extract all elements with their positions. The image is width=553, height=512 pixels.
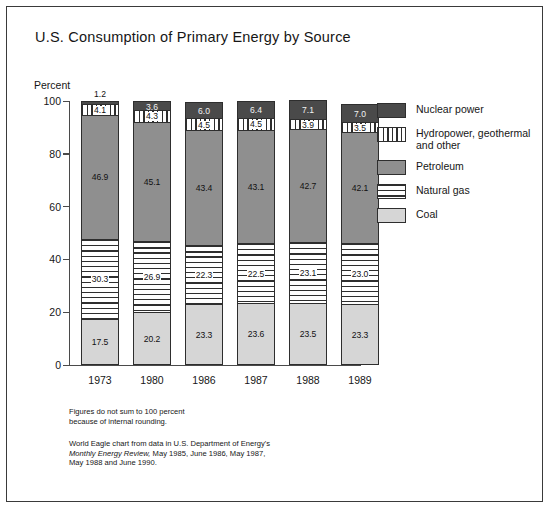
segment-gas-1973: 30.3 [81,239,119,319]
segment-hydro-1988: 3.9 [289,119,327,129]
legend-label-coal: Coal [416,208,438,221]
value-label-hydro-1973: 4.1 [82,106,118,115]
value-label-nuclear-1988: 7.1 [290,106,326,115]
rounding-note-line2: because of internal rounding. [69,417,185,427]
x-tick-label-1980: 1980 [122,374,182,386]
value-label-gas-1986: 22.3 [186,271,222,280]
segment-coal-1980: 20.2 [133,312,171,365]
x-tick-label-1989: 1989 [330,374,390,386]
segment-gas-1986: 22.3 [185,245,223,304]
x-tick-label-1987: 1987 [226,374,286,386]
legend-item-nuclear[interactable]: Nuclear power [377,103,542,118]
source-publication: Monthly Energy Review, [69,449,150,458]
y-tick-label: 0 [27,359,61,371]
legend-swatch-gas-icon [377,184,406,199]
legend: Nuclear powerHydropower, geothermal and … [377,103,542,232]
bar-1989[interactable]: 23.323.042.13.57.0 [341,101,379,365]
legend-label-nuclear: Nuclear power [416,103,484,116]
value-label-nuclear-1989: 7.0 [342,110,378,119]
y-tick-mark [63,365,70,366]
value-label-hydro-1988: 3.9 [290,121,326,129]
chart-frame: U.S. Consumption of Primary Energy by So… [6,6,543,502]
bar-1986[interactable]: 23.322.343.44.56.0 [185,101,223,365]
segment-petroleum-1986: 43.4 [185,130,223,245]
segment-gas-1987: 22.5 [237,243,275,302]
x-tick-label-1986: 1986 [174,374,234,386]
legend-item-hydro[interactable]: Hydropower, geothermal and other [377,127,542,151]
value-label-gas-1988: 23.1 [290,269,326,278]
legend-swatch-coal-icon [377,208,406,223]
segment-petroleum-1989: 42.1 [341,132,379,243]
value-label-petroleum-1988: 42.7 [290,182,326,191]
y-tick-mark [63,312,70,313]
segment-petroleum-1980: 45.1 [133,122,171,241]
segment-hydro-1987: 4.5 [237,118,275,130]
legend-label-gas: Natural gas [416,184,470,197]
value-label-coal-1986: 23.3 [186,331,222,340]
y-axis-line [69,101,70,365]
value-label-gas-1980: 26.9 [134,273,170,282]
legend-swatch-hydro-icon [377,127,406,142]
segment-hydro-1989: 3.5 [341,122,379,131]
segment-petroleum-1973: 46.9 [81,115,119,239]
segment-coal-1988: 23.5 [289,303,327,365]
value-label-nuclear-1987: 6.4 [238,106,274,115]
y-tick-label: 80 [27,148,61,160]
bar-1980[interactable]: 20.226.945.14.33.6 [133,101,171,365]
value-label-hydro-1989: 3.5 [342,124,378,131]
y-tick-label: 60 [27,201,61,213]
segment-gas-1980: 26.9 [133,241,171,312]
y-axis-label: Percent [34,79,70,91]
plot-area: 100806040200 17.530.346.94.11.220.226.94… [69,101,359,365]
value-label-coal-1987: 23.6 [238,330,274,339]
bar-1973[interactable]: 17.530.346.94.11.2 [81,101,119,365]
y-tick-label: 40 [27,253,61,265]
value-label-hydro-1987: 4.5 [238,120,274,129]
y-tick-mark [63,206,70,207]
value-label-gas-1987: 22.5 [238,270,274,279]
segment-gas-1988: 23.1 [289,242,327,303]
value-label-coal-1989: 23.3 [342,331,378,340]
segment-gas-1989: 23.0 [341,243,379,304]
legend-item-coal[interactable]: Coal [377,208,542,223]
segment-nuclear-1988: 7.1 [289,100,327,119]
value-label-petroleum-1987: 43.1 [238,183,274,192]
segment-coal-1987: 23.6 [237,303,275,365]
bar-1988[interactable]: 23.523.142.73.97.1 [289,101,327,365]
legend-item-petroleum[interactable]: Petroleum [377,160,542,175]
segment-hydro-1980: 4.3 [133,110,171,121]
source-note-line1: World Eagle chart from data in U.S. Depa… [69,439,270,449]
bar-1987[interactable]: 23.622.543.14.56.4 [237,101,275,365]
y-tick-mark [63,153,70,154]
value-label-coal-1980: 20.2 [134,335,170,344]
value-label-hydro-1986: 4.5 [186,121,222,130]
value-label-coal-1973: 17.5 [82,338,118,347]
y-tick-mark [63,259,70,260]
legend-label-hydro: Hydropower, geothermal and other [416,127,542,151]
segment-hydro-1986: 4.5 [185,118,223,130]
page-title: U.S. Consumption of Primary Energy by So… [35,29,351,45]
value-label-coal-1988: 23.5 [290,330,326,339]
rounding-note-line1: Figures do not sum to 100 percent [69,407,185,417]
value-label-nuclear-1986: 6.0 [186,107,222,116]
value-label-petroleum-1989: 42.1 [342,184,378,193]
y-tick-label: 100 [27,95,61,107]
value-label-gas-1989: 23.0 [342,270,378,279]
source-note: World Eagle chart from data in U.S. Depa… [69,439,270,468]
source-note-line2-rest: May 1985, June 1986, May 1987, [150,449,265,458]
segment-hydro-1973: 4.1 [81,104,119,115]
segment-nuclear-1987: 6.4 [237,101,275,118]
legend-swatch-petroleum-icon [377,160,406,175]
legend-item-gas[interactable]: Natural gas [377,184,542,199]
segment-nuclear-1986: 6.0 [185,102,223,118]
legend-label-petroleum: Petroleum [416,160,464,173]
value-label-petroleum-1986: 43.4 [186,184,222,193]
segment-petroleum-1987: 43.1 [237,130,275,244]
segment-coal-1986: 23.3 [185,304,223,366]
segment-petroleum-1988: 42.7 [289,129,327,242]
value-label-petroleum-1980: 45.1 [134,178,170,187]
segment-nuclear-1980: 3.6 [133,101,171,111]
value-label-gas-1973: 30.3 [82,275,118,284]
x-tick-label-1973: 1973 [70,374,130,386]
legend-swatch-nuclear-icon [377,103,406,118]
